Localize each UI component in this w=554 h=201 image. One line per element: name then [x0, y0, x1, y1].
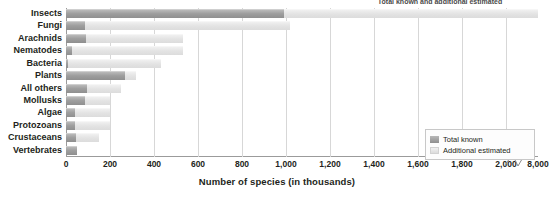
bar-segment-total-known: [66, 84, 87, 93]
category-label-protozoans: Protozoans: [13, 120, 62, 131]
stacked-bar: [66, 71, 136, 80]
stacked-bar: [66, 59, 161, 68]
x-tick-label: 0: [64, 159, 69, 169]
legend-swatch-additional-estimated: [430, 147, 439, 154]
bar-segment-additional-estimated: [68, 59, 160, 68]
bar-row: [66, 70, 538, 81]
bar-row: [66, 58, 538, 69]
bar-segment-total-known: [66, 9, 284, 18]
x-tick-label: 400: [147, 159, 161, 169]
category-label-mollusks: Mollusks: [23, 95, 62, 106]
category-label-plants: Plants: [35, 70, 62, 81]
chart-legend: Total known Additional estimated: [425, 129, 535, 160]
bar-row: [66, 8, 538, 19]
category-label-bacteria: Bacteria: [26, 58, 62, 69]
category-label-vertebrates: Vertebrates: [13, 145, 62, 156]
stacked-bar: [66, 96, 110, 105]
x-tick-label: 200: [103, 159, 117, 169]
bar-segment-additional-estimated: [75, 108, 110, 117]
bar-segment-additional-estimated: [86, 34, 183, 43]
bar-segment-total-known: [66, 121, 75, 130]
stacked-bar: [66, 146, 77, 155]
x-tick-label: 8,000: [527, 159, 548, 169]
category-label-nematodes: Nematodes: [13, 45, 62, 56]
category-label-all-others: All others: [20, 83, 62, 94]
x-tick-label: 1,600: [407, 159, 428, 169]
stacked-bar: [66, 21, 290, 30]
bar-segment-additional-estimated: [72, 46, 183, 55]
bar-segment-total-known: [66, 21, 85, 30]
category-label-algae: Algae: [37, 107, 62, 118]
category-label-crustaceans: Crustaceans: [8, 132, 62, 143]
bar-segment-additional-estimated: [284, 9, 538, 18]
bar-row: [66, 83, 538, 94]
stacked-bar: [66, 46, 183, 55]
x-tick-label: 600: [191, 159, 205, 169]
stacked-bar: [66, 84, 121, 93]
bar-row: [66, 33, 538, 44]
x-tick-label: 1,000: [275, 159, 296, 169]
x-tick-label: 1,200: [319, 159, 340, 169]
bar-segment-additional-estimated: [125, 71, 136, 80]
stacked-bar: [66, 133, 99, 142]
bar-row: [66, 20, 538, 31]
stacked-bar: [66, 121, 110, 130]
x-axis-title: Number of species (in thousands): [0, 176, 554, 187]
bar-segment-total-known: [66, 34, 86, 43]
legend-item-total-known: Total known: [430, 134, 530, 144]
bar-segment-total-known: [66, 108, 75, 117]
bar-segment-additional-estimated: [75, 121, 110, 130]
legend-label-total-known: Total known: [443, 135, 483, 144]
value-axis-ticks: 02004006008001,0001,2001,4001,6001,8002,…: [0, 159, 554, 173]
bar-segment-additional-estimated: [85, 21, 291, 30]
x-tick-label: 1,800: [451, 159, 472, 169]
bar-row: [66, 95, 538, 106]
legend-swatch-total-known: [430, 136, 439, 143]
bar-row: [66, 45, 538, 56]
chart-top-caption: Total known and additional estimated: [370, 0, 510, 7]
category-label-arachnids: Arachnids: [18, 33, 62, 44]
legend-item-additional-estimated: Additional estimated: [430, 145, 530, 155]
bar-segment-total-known: [66, 146, 77, 155]
category-axis: InsectsFungiArachnidsNematodesBacteriaPl…: [0, 8, 62, 157]
category-label-insects: Insects: [31, 8, 62, 19]
bar-segment-additional-estimated: [85, 96, 110, 105]
stacked-bar: [66, 9, 538, 18]
x-tick-label: 1,400: [363, 159, 384, 169]
bar-row: [66, 107, 538, 118]
legend-label-additional-estimated: Additional estimated: [443, 146, 511, 155]
species-bar-chart: Total known and additional estimated Ins…: [0, 0, 554, 201]
bar-segment-additional-estimated: [87, 84, 121, 93]
stacked-bar: [66, 108, 110, 117]
bar-segment-total-known: [66, 71, 125, 80]
category-label-fungi: Fungi: [38, 20, 63, 31]
x-tick-label: 800: [235, 159, 249, 169]
bar-segment-total-known: [66, 133, 76, 142]
stacked-bar: [66, 34, 183, 43]
bar-segment-total-known: [66, 96, 85, 105]
bar-segment-additional-estimated: [76, 133, 99, 142]
